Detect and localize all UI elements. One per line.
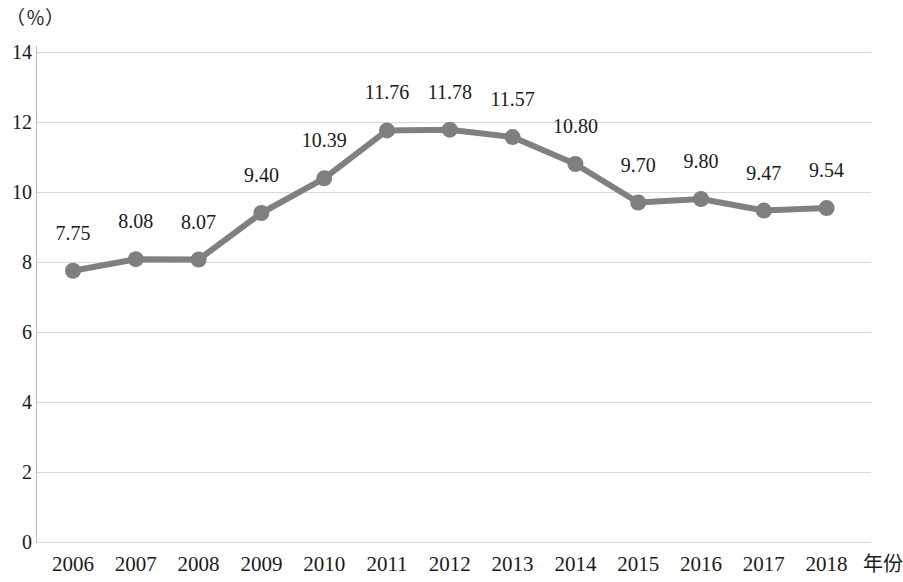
data-point-marker (693, 191, 709, 207)
data-point-marker (191, 252, 207, 268)
x-axis-tick-label: 2017 (743, 552, 785, 576)
data-point-marker (65, 263, 81, 279)
x-axis-tick-label: 2013 (492, 552, 534, 576)
x-axis-tick-label: 2007 (115, 552, 157, 576)
x-axis-tick-label: 2011 (366, 552, 407, 576)
data-point-marker (756, 203, 772, 219)
data-point-marker (819, 200, 835, 216)
x-axis-tick-label: 2016 (680, 552, 722, 576)
x-axis-tick-label: 2014 (554, 552, 596, 576)
data-point-label: 9.40 (244, 165, 279, 185)
data-point-label: 8.08 (118, 211, 153, 231)
data-point-label: 9.70 (621, 155, 656, 175)
data-point-label: 11.78 (428, 82, 472, 102)
x-axis-tick-label: 2009 (240, 552, 282, 576)
data-point-label: 9.80 (684, 151, 719, 171)
data-point-label: 8.07 (181, 212, 216, 232)
data-point-label: 9.47 (746, 163, 781, 183)
x-axis-tick-label: 2008 (178, 552, 220, 576)
data-point-marker (128, 251, 144, 267)
data-point-label: 9.54 (809, 160, 844, 180)
x-axis-title: 年份 (863, 552, 903, 576)
data-point-marker (505, 129, 521, 145)
data-point-marker (316, 170, 332, 186)
data-point-marker (442, 122, 458, 138)
x-axis-tick-label: 2006 (52, 552, 94, 576)
data-point-label: 10.80 (553, 116, 598, 136)
line-chart: （％） 02468101214 7.758.088.079.4010.3911.… (0, 0, 903, 582)
x-axis-tick-label: 2015 (617, 552, 659, 576)
data-point-marker (630, 195, 646, 211)
data-point-label: 10.39 (302, 130, 347, 150)
x-axis-tick-label: 2012 (429, 552, 471, 576)
data-point-label: 11.57 (490, 89, 534, 109)
data-point-marker (567, 156, 583, 172)
data-point-marker (253, 205, 269, 221)
data-point-marker (379, 122, 395, 138)
data-point-label: 11.76 (365, 82, 409, 102)
x-axis-tick-label: 2010 (303, 552, 345, 576)
data-point-label: 7.75 (56, 223, 91, 243)
x-axis-tick-label: 2018 (806, 552, 848, 576)
